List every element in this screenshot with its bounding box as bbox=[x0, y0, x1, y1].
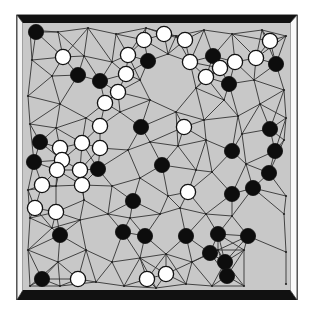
grid-intersection bbox=[129, 217, 131, 219]
grid-intersection bbox=[139, 257, 141, 259]
grid-intersection bbox=[231, 215, 233, 217]
grid-intersection bbox=[283, 89, 285, 91]
grid-intersection bbox=[241, 133, 243, 135]
white-stone bbox=[139, 271, 154, 286]
grid-intersection bbox=[123, 285, 125, 287]
grid-intersection bbox=[55, 185, 57, 187]
white-stone bbox=[198, 69, 213, 84]
white-stone bbox=[34, 177, 49, 192]
grid-intersection bbox=[195, 87, 197, 89]
grid-intersection bbox=[243, 249, 245, 251]
grid-intersection bbox=[29, 123, 31, 125]
white-stone bbox=[49, 162, 64, 177]
black-stone bbox=[245, 180, 260, 195]
grid-intersection bbox=[95, 281, 97, 283]
grid-intersection bbox=[167, 53, 169, 55]
grid-intersection bbox=[191, 261, 193, 263]
grid-intersection bbox=[87, 27, 89, 29]
grid-intersection bbox=[211, 285, 213, 287]
white-stone bbox=[92, 118, 107, 133]
black-stone bbox=[210, 226, 225, 241]
grid-intersection bbox=[285, 283, 287, 285]
white-stone bbox=[136, 32, 151, 47]
black-stone bbox=[70, 67, 85, 82]
white-stone bbox=[55, 49, 70, 64]
grid-intersection bbox=[29, 217, 31, 219]
black-stone bbox=[28, 24, 43, 39]
white-stone bbox=[248, 50, 263, 65]
grid-intersection bbox=[145, 27, 147, 29]
grid-intersection bbox=[85, 249, 87, 251]
grid-intersection bbox=[165, 253, 167, 255]
black-stone bbox=[178, 228, 193, 243]
grid-intersection bbox=[167, 195, 169, 197]
white-stone bbox=[74, 135, 89, 150]
grid-intersection bbox=[127, 149, 129, 151]
grid-intersection bbox=[223, 99, 225, 101]
white-stone bbox=[262, 33, 277, 48]
grid-intersection bbox=[205, 139, 207, 141]
grid-intersection bbox=[27, 249, 29, 251]
black-stone bbox=[267, 143, 282, 158]
white-stone bbox=[97, 95, 112, 110]
black-stone bbox=[224, 186, 239, 201]
black-stone bbox=[137, 228, 152, 243]
black-stone bbox=[202, 245, 217, 260]
grid-intersection bbox=[155, 287, 157, 289]
grid-intersection bbox=[175, 35, 177, 37]
go-board-frame bbox=[16, 14, 298, 300]
white-stone bbox=[212, 60, 227, 75]
grid-intersection bbox=[259, 103, 261, 105]
black-stone bbox=[26, 154, 41, 169]
black-stone bbox=[140, 53, 155, 68]
grid-intersection bbox=[243, 285, 245, 287]
white-stone bbox=[182, 54, 197, 69]
white-stone bbox=[156, 26, 171, 41]
grid-intersection bbox=[245, 163, 247, 165]
grid-intersection bbox=[285, 251, 287, 253]
grid-intersection bbox=[253, 79, 255, 81]
grid-intersection bbox=[31, 59, 33, 61]
white-stone bbox=[27, 200, 42, 215]
grid-intersection bbox=[29, 285, 31, 287]
grid-intersection bbox=[285, 117, 287, 119]
grid-intersection bbox=[57, 261, 59, 263]
grid-intersection bbox=[111, 185, 113, 187]
grid-intersection bbox=[283, 213, 285, 215]
frame-right-bevel bbox=[290, 15, 297, 300]
white-stone bbox=[70, 271, 85, 286]
grid-intersection bbox=[139, 177, 141, 179]
grid-intersection bbox=[177, 145, 179, 147]
grid-intersection bbox=[111, 261, 113, 263]
black-stone bbox=[221, 76, 236, 91]
grid-intersection bbox=[59, 103, 61, 105]
grid-intersection bbox=[119, 111, 121, 113]
grid-intersection bbox=[203, 29, 205, 31]
frame-left-bevel bbox=[17, 15, 23, 300]
white-stone bbox=[92, 140, 107, 155]
white-stone bbox=[48, 204, 63, 219]
black-stone bbox=[224, 143, 239, 158]
frame-bottom-bevel bbox=[17, 290, 297, 300]
grid-intersection bbox=[261, 29, 263, 31]
black-stone bbox=[133, 119, 148, 134]
white-stone bbox=[176, 119, 191, 134]
grid-intersection bbox=[111, 61, 113, 63]
grid-intersection bbox=[237, 115, 239, 117]
grid-intersection bbox=[149, 141, 151, 143]
grid-intersection bbox=[59, 285, 61, 287]
black-stone bbox=[90, 161, 105, 176]
grid-intersection bbox=[285, 195, 287, 197]
black-stone bbox=[262, 121, 277, 136]
grid-intersection bbox=[231, 33, 233, 35]
grid-intersection bbox=[83, 199, 85, 201]
white-stone bbox=[180, 184, 195, 199]
grid-intersection bbox=[205, 213, 207, 215]
grid-intersection bbox=[79, 219, 81, 221]
white-stone bbox=[72, 162, 87, 177]
black-stone bbox=[217, 254, 232, 269]
black-stone bbox=[261, 165, 276, 180]
grid-intersection bbox=[115, 33, 117, 35]
grid-intersection bbox=[211, 171, 213, 173]
black-stone bbox=[34, 271, 49, 286]
